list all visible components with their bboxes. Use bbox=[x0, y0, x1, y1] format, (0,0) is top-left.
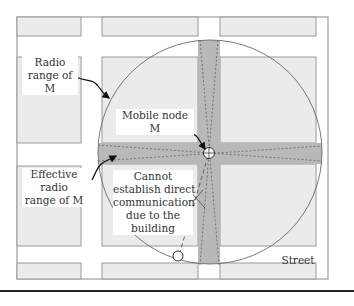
radio-range-label-line2: range of bbox=[22, 69, 78, 82]
cannot-establish-label-line5: building bbox=[113, 222, 193, 235]
radio-range-label: Radio range of M bbox=[22, 56, 78, 95]
mobile-node-label-line2: M bbox=[116, 122, 194, 135]
building bbox=[102, 263, 198, 279]
building bbox=[102, 17, 198, 36]
building bbox=[17, 17, 81, 36]
radio-range-label-line1: Radio bbox=[22, 56, 78, 69]
mobile-node-icon bbox=[204, 148, 215, 159]
building bbox=[17, 263, 81, 279]
mobile-node-label-line1: Mobile node bbox=[116, 109, 194, 122]
building bbox=[220, 164, 316, 246]
mobile-node-label: Mobile node M bbox=[116, 109, 194, 135]
effective-range-label: Effective radio range of M bbox=[22, 168, 86, 207]
effective-range-label-line3: range of M bbox=[22, 194, 86, 207]
cannot-establish-label-line4: due to the bbox=[113, 209, 193, 222]
radio-range-label-line3: M bbox=[22, 82, 78, 95]
cannot-establish-label-line1: Cannot bbox=[113, 170, 193, 183]
building bbox=[220, 57, 316, 143]
cannot-establish-label-line2: establish direct bbox=[113, 183, 193, 196]
remote-node-icon bbox=[173, 251, 183, 261]
effective-range-label-line2: radio bbox=[22, 181, 86, 194]
building bbox=[220, 17, 316, 36]
bottom-rule bbox=[0, 290, 354, 292]
street-label: Street bbox=[280, 254, 316, 267]
cannot-establish-label: Cannot establish direct communication du… bbox=[113, 170, 193, 235]
cannot-establish-label-line3: communication bbox=[113, 196, 193, 209]
effective-range-label-line1: Effective bbox=[22, 168, 86, 181]
